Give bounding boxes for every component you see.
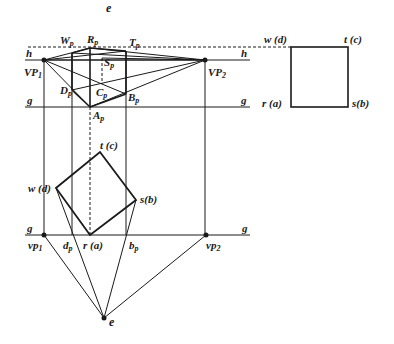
vp1-lower-point — [42, 233, 47, 238]
label-r-a: r (a) — [83, 239, 103, 252]
label-ap: Ap — [92, 109, 104, 123]
elevation-square — [291, 47, 348, 107]
label-vp2-lower: vp2 — [206, 239, 220, 253]
label-cp: Cp — [96, 86, 107, 100]
label-g-lower-right: g — [241, 222, 248, 234]
label-vp1: VP1 — [24, 66, 42, 80]
label-plan-s: s(b) — [139, 193, 157, 206]
label-bp-lower: bp — [129, 239, 139, 253]
label-elev-r: r (a) — [262, 97, 282, 110]
label-g-upper-left: g — [26, 94, 33, 106]
label-plan-t: t (c) — [100, 139, 118, 152]
ray-s-e — [104, 200, 136, 318]
label-g-lower-left: g — [26, 222, 33, 234]
edge-rp-tp — [90, 48, 126, 51]
label-vp1-lower: vp1 — [28, 239, 42, 253]
label-e-top: e — [106, 1, 112, 15]
edge-dp-ap — [72, 90, 90, 107]
label-e-bottom: e — [109, 315, 115, 329]
label-elev-w: w (d) — [264, 33, 287, 46]
vp2-to-dp — [72, 60, 205, 90]
label-vp2: VP2 — [208, 66, 226, 80]
label-bp: Bp — [127, 91, 139, 105]
edge-wp-rp — [72, 48, 90, 53]
vp2-lower-point — [204, 233, 209, 238]
label-elev-s: s(b) — [351, 97, 369, 110]
label-g-upper-right: g — [240, 94, 247, 106]
vp2-point — [203, 58, 208, 63]
ray-vp2-e — [104, 235, 206, 318]
label-h-left: h — [26, 47, 32, 59]
label-rp: Rp — [86, 33, 98, 47]
label-elev-t: t (c) — [344, 33, 362, 46]
label-tp: Tp — [129, 36, 140, 50]
label-h-right: h — [241, 47, 247, 59]
label-wp: Wp — [60, 34, 74, 48]
label-dp-lower: dp — [63, 239, 73, 253]
plan-square — [56, 152, 136, 235]
label-plan-w: w (d) — [28, 182, 51, 195]
ray-w-e — [56, 188, 104, 318]
perspective-diagram: e h h g g g g VP1 VP2 Wp Rp Tp Sp Dp Cp … — [0, 0, 394, 344]
vp1-point — [42, 58, 47, 63]
e-point — [102, 316, 107, 321]
